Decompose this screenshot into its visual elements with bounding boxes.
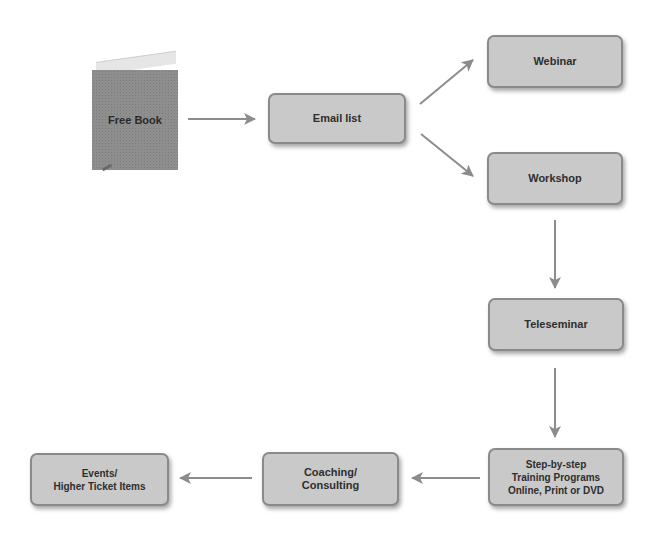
webinar-node: Webinar [487,35,623,88]
workshop-label: Workshop [528,172,582,185]
free-book-label: Free Book [108,114,162,126]
training-line-3: Online, Print or DVD [508,484,604,497]
coaching-line-2: Consulting [302,479,359,492]
arrow-email-to-webinar [420,60,473,104]
teleseminar-label: Teleseminar [524,318,587,331]
webinar-label: Webinar [533,55,576,68]
coaching-line-1: Coaching/ [304,466,357,479]
events-line-1: Events/ [82,467,118,480]
book-cover: Free Book [92,70,178,170]
free-book-node: Free Book [92,62,180,174]
email-list-label: Email list [313,112,361,125]
arrow-email-to-workshop [421,134,473,176]
training-programs-node: Step-by-step Training Programs Online, P… [488,448,624,506]
teleseminar-node: Teleseminar [488,298,624,351]
training-line-1: Step-by-step [526,458,587,471]
workshop-node: Workshop [487,152,623,205]
coaching-consulting-node: Coaching/ Consulting [262,452,399,506]
training-line-2: Training Programs [512,471,600,484]
events-line-2: Higher Ticket Items [53,480,145,493]
email-list-node: Email list [268,93,406,144]
events-node: Events/ Higher Ticket Items [30,453,169,506]
